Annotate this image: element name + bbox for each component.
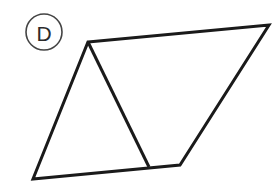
badge-letter: D <box>36 22 51 45</box>
figure-container: D <box>0 0 280 181</box>
geometry-figure: D <box>0 0 280 181</box>
